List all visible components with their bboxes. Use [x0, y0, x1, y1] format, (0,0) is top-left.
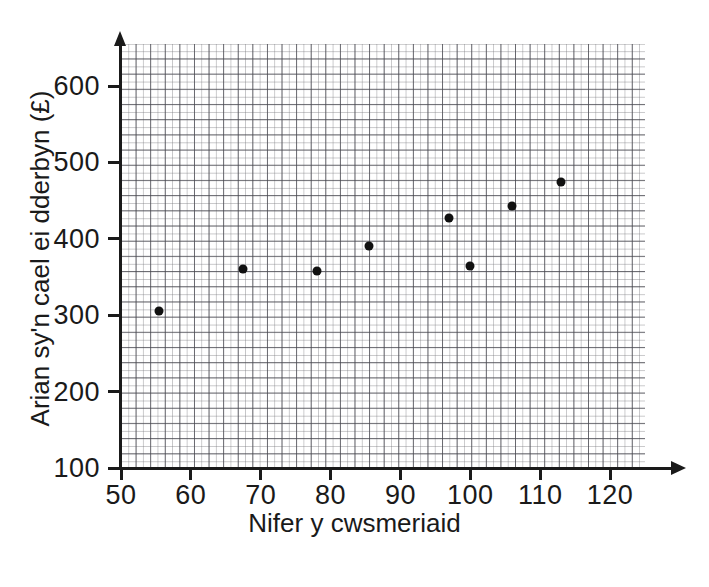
y-tick-mark	[108, 85, 121, 88]
x-tick-mark	[259, 468, 262, 480]
x-axis-title: Nifer y cwsmeriaid	[0, 508, 709, 539]
x-tick-mark	[399, 468, 402, 480]
x-axis-line	[119, 467, 675, 470]
x-tick-mark	[120, 468, 123, 480]
plot-area	[121, 44, 645, 468]
y-axis-title: Arian sy'n cael ei dderbyn (£)	[25, 59, 56, 459]
data-point	[466, 261, 475, 270]
y-axis-line	[119, 44, 122, 470]
data-point	[239, 265, 248, 274]
x-tick-label: 50	[105, 480, 136, 511]
x-tick-label: 80	[315, 480, 346, 511]
x-tick-label: 60	[175, 480, 206, 511]
data-point	[155, 307, 164, 316]
x-tick-label: 100	[447, 480, 494, 511]
x-tick-mark	[609, 468, 612, 480]
x-tick-label: 120	[587, 480, 634, 511]
data-point	[365, 242, 374, 251]
x-tick-label: 110	[518, 480, 563, 511]
data-point	[445, 214, 454, 223]
y-axis-arrow-icon	[114, 31, 126, 46]
x-axis-arrow-icon	[671, 461, 686, 475]
y-tick-mark	[108, 314, 121, 317]
x-tick-mark	[189, 468, 192, 480]
scatter-chart-figure: 100200300400500600 5060708090100110120 N…	[0, 0, 709, 587]
y-tick-mark	[108, 161, 121, 164]
x-tick-label: 70	[245, 480, 276, 511]
grid-major-lines	[121, 44, 645, 468]
y-tick-mark	[108, 390, 121, 393]
x-tick-mark	[329, 468, 332, 480]
x-tick-label: 90	[385, 480, 416, 511]
y-tick-mark	[108, 237, 121, 240]
data-point	[557, 178, 566, 187]
x-tick-mark	[469, 468, 472, 480]
data-point	[312, 266, 321, 275]
data-point	[508, 201, 517, 210]
x-tick-mark	[539, 468, 542, 480]
